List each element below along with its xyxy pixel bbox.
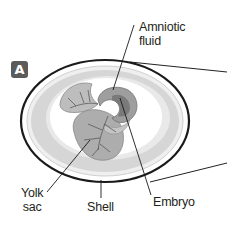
egg-diagram: A Amniotic fluid Yolk sac Shell Embryo bbox=[0, 0, 227, 226]
label-shell: Shell bbox=[87, 200, 114, 214]
label-yolk-line1: Yolk bbox=[21, 186, 43, 200]
panel-label-badge: A bbox=[11, 61, 28, 78]
label-yolk-sac: Yolk sac bbox=[21, 186, 43, 214]
label-yolk-line2: sac bbox=[21, 200, 43, 214]
label-amniotic-line2: fluid bbox=[139, 34, 185, 48]
label-embryo: Embryo bbox=[153, 195, 195, 209]
label-amniotic-fluid: Amniotic fluid bbox=[139, 20, 185, 48]
label-amniotic-line1: Amniotic bbox=[139, 20, 185, 34]
